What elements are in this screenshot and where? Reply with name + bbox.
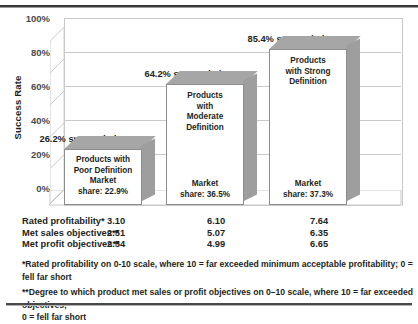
bar-1-side-face bbox=[141, 138, 155, 201]
chart-plot-area: Success Rate 100% 80% 60% 40% 20% 0% 26.… bbox=[0, 10, 418, 215]
row-0-col-2-value: 6.10 bbox=[207, 216, 247, 226]
bar-3-share-line2: share: 37.3% bbox=[283, 190, 333, 199]
row-label-met-profit-objectives: Met profit objectives** bbox=[22, 239, 120, 249]
y-tick-0: 0% bbox=[10, 183, 50, 194]
bar-3-name-line2: with Strong bbox=[285, 67, 330, 76]
footnote-double-asterisk-line2: 0 = fell far short bbox=[22, 311, 414, 324]
table-row: Met sales objectives** 2.51 5.07 6.35 bbox=[22, 228, 412, 240]
row-1-col-2-value: 5.07 bbox=[207, 228, 247, 238]
row-1-col-1-value: 2.51 bbox=[107, 228, 147, 238]
y-tick-40: 40% bbox=[10, 115, 50, 126]
bar-1[interactable]: Products with Poor Definition Market sha… bbox=[64, 149, 142, 205]
bar-1-share-line2: share: 22.9% bbox=[78, 187, 128, 196]
bar-3-name-line3: Definition bbox=[289, 77, 327, 86]
bar-2-share-line2: share: 36.5% bbox=[180, 190, 230, 199]
footnotes: *Rated profitability on 0-10 scale, wher… bbox=[22, 258, 414, 324]
row-2-col-3-value: 6.65 bbox=[310, 239, 350, 249]
axis-depth-wall bbox=[50, 18, 65, 205]
row-2-col-2-value: 4.99 bbox=[207, 239, 247, 249]
bar-3-front-face: Products with Strong Definition Market s… bbox=[269, 49, 347, 205]
row-2-col-1-value: 2.54 bbox=[107, 239, 147, 249]
table-row: Rated profitability* 3.10 6.10 7.64 bbox=[22, 216, 412, 228]
y-axis-ticks: 100% 80% 60% 40% 20% 0% bbox=[0, 10, 50, 215]
y-tick-20: 20% bbox=[10, 149, 50, 160]
bar-3-side-face bbox=[346, 38, 360, 201]
bar-1-name-line1: Products with bbox=[76, 155, 130, 164]
bar-2-side-face bbox=[243, 73, 257, 201]
row-1-col-3-value: 6.35 bbox=[310, 228, 350, 238]
top-divider-rule bbox=[0, 5, 418, 8]
bar-3-name-line1: Products bbox=[290, 56, 326, 65]
bottom-divider-rule bbox=[6, 303, 412, 306]
bar-2-front-face: Products with Moderate Definition Market… bbox=[166, 84, 244, 205]
row-label-met-sales-objectives: Met sales objectives** bbox=[22, 228, 119, 238]
bar-2-name-line4: Definition bbox=[186, 123, 224, 132]
row-0-col-1-value: 3.10 bbox=[107, 216, 147, 226]
bar-1-name-line2: Poor Definition bbox=[74, 166, 133, 175]
bar-3-share-line1: Market bbox=[295, 179, 321, 188]
bar-2-name-line2: with bbox=[197, 102, 213, 111]
bar-2-name-line3: Moderate bbox=[187, 112, 223, 121]
bar-1-share-line1: Market bbox=[90, 176, 116, 185]
bar-1-front-face: Products with Poor Definition Market sha… bbox=[64, 149, 142, 205]
footnote-single-asterisk: *Rated profitability on 0-10 scale, wher… bbox=[22, 258, 414, 283]
row-0-col-3-value: 7.64 bbox=[310, 216, 350, 226]
y-tick-100: 100% bbox=[10, 13, 50, 24]
bar-2[interactable]: Products with Moderate Definition Market… bbox=[166, 84, 244, 205]
bar-3[interactable]: Products with Strong Definition Market s… bbox=[269, 49, 347, 205]
metrics-table: Rated profitability* 3.10 6.10 7.64 Met … bbox=[22, 216, 412, 251]
footnote-double-asterisk-line1: **Degree to which product met sales or p… bbox=[22, 286, 414, 311]
y-tick-80: 80% bbox=[10, 47, 50, 58]
row-label-rated-profitability: Rated profitability* bbox=[22, 216, 105, 226]
bar-2-share-line1: Market bbox=[192, 179, 218, 188]
bar-2-name-line1: Products bbox=[187, 91, 223, 100]
y-tick-60: 60% bbox=[10, 81, 50, 92]
table-row: Met profit objectives** 2.54 4.99 6.65 bbox=[22, 239, 412, 251]
